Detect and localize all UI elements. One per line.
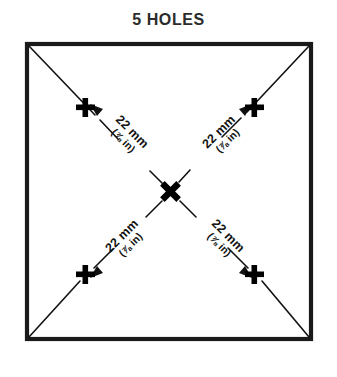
diagram-graphics: [0, 0, 337, 377]
diagram-canvas: 5 HOLES: [0, 0, 337, 377]
